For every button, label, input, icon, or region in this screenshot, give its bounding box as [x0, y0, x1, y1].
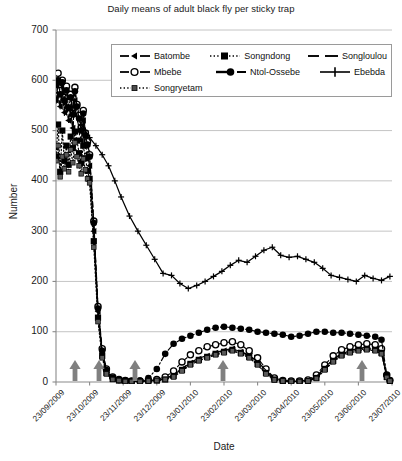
- legend-item-ebebda: Ebebda: [318, 65, 385, 79]
- y-tick-label: 100: [14, 325, 48, 336]
- series-ebebda: [53, 91, 393, 291]
- legend-key-dot-square-filled-icon: [208, 49, 242, 63]
- legend-row: Songryetam: [118, 80, 387, 96]
- treatment-arrow-4: [217, 360, 228, 381]
- legend-key-dot-square-small-icon: [118, 81, 152, 95]
- legend-label: Batombe: [152, 51, 190, 61]
- y-tick-label: 500: [14, 124, 48, 135]
- y-tick-label: 0: [14, 376, 48, 387]
- treatment-arrow-2: [93, 360, 104, 381]
- legend-key-dash-tri-left-icon: [118, 49, 152, 63]
- legend-item-mbebe: Mbebe: [118, 65, 214, 79]
- y-tick-label: 700: [14, 24, 48, 35]
- legend-item-songndong: Songndong: [208, 49, 306, 63]
- legend-label: Mbebe: [152, 67, 182, 77]
- legend-item-songryetam: Songryetam: [118, 81, 214, 95]
- series-batombe: [53, 82, 393, 385]
- series-mbebe: [53, 70, 393, 384]
- legend-label: Ntol-Ossebe: [248, 67, 300, 77]
- chart-title: Daily means of adult black fly per stick…: [0, 3, 402, 14]
- legend-item-batombe: Batombe: [118, 49, 208, 63]
- y-tick-label: 300: [14, 225, 48, 236]
- legend-label: Ebebda: [352, 67, 385, 77]
- legend-key-longdash-icon: [306, 49, 340, 63]
- legend-item-songloulou: Songloulou: [306, 49, 387, 63]
- chart-figure: Daily means of adult black fly per stick…: [0, 0, 402, 461]
- legend-item-ntol-ossebe: Ntol-Ossebe: [214, 65, 318, 79]
- legend-label: Songndong: [242, 51, 290, 61]
- legend-row: Batombe Songndong Songloulou: [118, 48, 387, 64]
- series-ntol-ossebe: [53, 77, 394, 384]
- x-axis-title: Date: [56, 441, 392, 452]
- y-tick-label: 400: [14, 174, 48, 185]
- legend-key-dashdot-circle-filled-icon: [214, 65, 248, 79]
- y-tick-label: 600: [14, 74, 48, 85]
- legend-key-solid-plus-icon: [318, 65, 352, 79]
- y-tick-label: 200: [14, 275, 48, 286]
- treatment-arrow-5: [356, 360, 367, 381]
- legend-label: Songryetam: [152, 83, 203, 93]
- legend-label: Songloulou: [340, 51, 387, 61]
- legend-key-dash-circle-open-icon: [118, 65, 152, 79]
- series-songloulou: [56, 88, 390, 381]
- legend-row: Mbebe Ntol-Ossebe Ebebda: [118, 64, 387, 80]
- treatment-arrow-1: [69, 360, 80, 381]
- chart-legend: Batombe Songndong Songloulou Mbebe Ntol-…: [111, 44, 392, 97]
